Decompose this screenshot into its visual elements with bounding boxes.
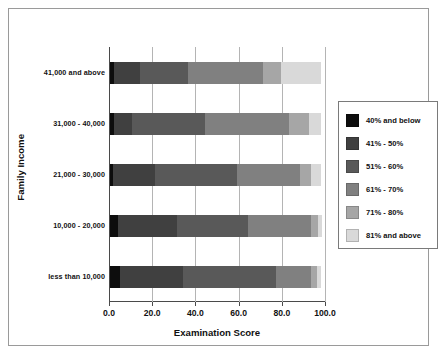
bar-segment [114,62,140,84]
bar-segment [205,113,289,135]
legend-swatch-icon [346,160,359,173]
y-axis-tick-label: 21,000 - 30,000 [53,170,105,179]
legend-item[interactable]: 61% - 70% [346,178,437,200]
x-axis-tick-label: 80.0 [273,308,290,318]
bar-segment [263,62,280,84]
legend-item[interactable]: 40% and below [346,109,437,131]
y-axis-title: Family Income [15,134,26,201]
bar-segment [132,113,205,135]
legend-item-label: 61% - 70% [366,185,403,194]
legend-item-label: 51% - 60% [366,162,403,171]
gridline [325,47,326,302]
x-axis-tick-label: 20.0 [144,308,161,318]
bar-segment [120,266,184,288]
y-axis-tick-label: 10,000 - 20,000 [53,221,105,230]
bar-segment [188,62,264,84]
y-axis-tick-labels: 41,000 and above31,000 - 40,00021,000 - … [33,47,105,302]
chart-frame: Family Income 41,000 and above31,000 - 4… [8,8,429,346]
legend-swatch-icon [346,114,359,127]
bar-segment [281,62,321,84]
y-axis-tick-label: less than 10,000 [48,272,105,281]
bar-segment [318,215,321,237]
y-axis-tick-label: 31,000 - 40,000 [53,119,105,128]
x-axis-tick-label: 100.0 [314,308,336,318]
bar-stack [110,164,321,186]
legend-item[interactable]: 81% and above [346,224,437,246]
bar-segment [183,266,276,288]
bar-segment [237,164,300,186]
legend-item-label: 81% and above [366,231,421,240]
bar-segment [317,266,320,288]
legend-item-label: 40% and below [366,116,420,125]
bar-segment [309,113,321,135]
y-axis-tick-label: 41,000 and above [44,68,105,77]
legend-swatch-icon [346,183,359,196]
legend-item-label: 41% - 50% [366,139,403,148]
bar-segment [311,164,321,186]
bar-stack [110,113,321,135]
bar-segment [110,215,118,237]
chart-legend: 40% and below41% - 50%51% - 60%61% - 70%… [338,101,438,249]
bar-segment [113,164,155,186]
bar-segment [118,215,177,237]
legend-item[interactable]: 71% - 80% [346,201,437,223]
legend-item[interactable]: 41% - 50% [346,132,437,154]
legend-item-label: 71% - 80% [366,208,403,217]
x-axis-line [109,301,326,302]
legend-swatch-icon [346,229,359,242]
x-axis-tick [152,302,153,306]
bar-segment [114,113,131,135]
bar-stack [110,62,321,84]
chart-screenshot: Family Income 41,000 and above31,000 - 4… [0,0,439,356]
bar-segment [300,164,311,186]
bar-stack [110,215,322,237]
x-axis-tick-label: 40.0 [187,308,204,318]
bar-stack [110,266,321,288]
bar-segment [248,215,311,237]
x-axis-tick [282,302,283,306]
x-axis-tick [239,302,240,306]
bar-segment [110,266,120,288]
x-axis-tick-label: 0.0 [103,308,115,318]
bar-segment [289,113,308,135]
plot-area [109,47,325,302]
x-axis-tick [195,302,196,306]
legend-item[interactable]: 51% - 60% [346,155,437,177]
bar-segment [311,215,319,237]
x-axis-tick [325,302,326,306]
legend-swatch-icon [346,206,359,219]
legend-swatch-icon [346,137,359,150]
bar-segment [155,164,237,186]
x-axis-tick-label: 60.0 [230,308,247,318]
bar-segment [177,215,248,237]
bar-segment [140,62,188,84]
x-axis-title: Examination Score [109,327,325,338]
x-axis-tick [109,302,110,306]
bar-segment [276,266,311,288]
